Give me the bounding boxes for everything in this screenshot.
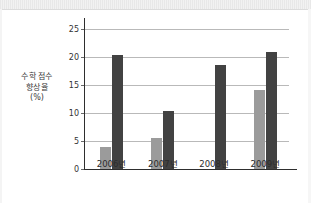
x-axis-tick-label: 2006년 [97, 157, 127, 169]
y-axis-tick-label: 0 [74, 165, 79, 174]
gridline [85, 29, 289, 30]
y-axis-tick-label: 25 [69, 25, 79, 34]
x-axis-tick-label: 2008년 [199, 157, 229, 169]
y-axis-title-line-3: (%) [8, 93, 66, 104]
chart-page: 수학 점수 향상율 (%) 0510152025 2006년2007년2008년… [0, 0, 311, 203]
y-axis-tick-mark [81, 29, 84, 30]
y-axis-tick-mark [81, 85, 84, 86]
x-axis-tick-label: 2009년 [251, 157, 281, 169]
y-axis-title-line-2: 향상율 [8, 83, 66, 94]
y-axis-tick-mark [81, 113, 84, 114]
y-axis-tick-mark [81, 169, 84, 170]
scan-edge-left [0, 9, 2, 203]
scan-edge-right [308, 9, 311, 203]
y-axis-tick-label: 10 [69, 109, 79, 118]
y-axis-tick-label: 5 [74, 137, 79, 146]
y-axis-tick-label: 20 [69, 53, 79, 62]
y-axis-line [84, 18, 85, 170]
bar-2006년-dark-gray-series [112, 55, 123, 169]
y-axis-title-line-1: 수학 점수 [8, 72, 66, 83]
y-axis-title: 수학 점수 향상율 (%) [8, 72, 66, 104]
y-axis-tick-label: 15 [69, 81, 79, 90]
bar-2008년-dark-gray-series [215, 65, 226, 169]
plot-area: 0510152025 [84, 18, 289, 170]
x-axis-line [84, 169, 297, 170]
y-axis-tick-mark [81, 57, 84, 58]
bar-2009년-dark-gray-series [266, 52, 277, 169]
scan-artifact-strip [0, 0, 311, 10]
x-axis-tick-label: 2007년 [148, 157, 178, 169]
y-axis-tick-mark [81, 141, 84, 142]
